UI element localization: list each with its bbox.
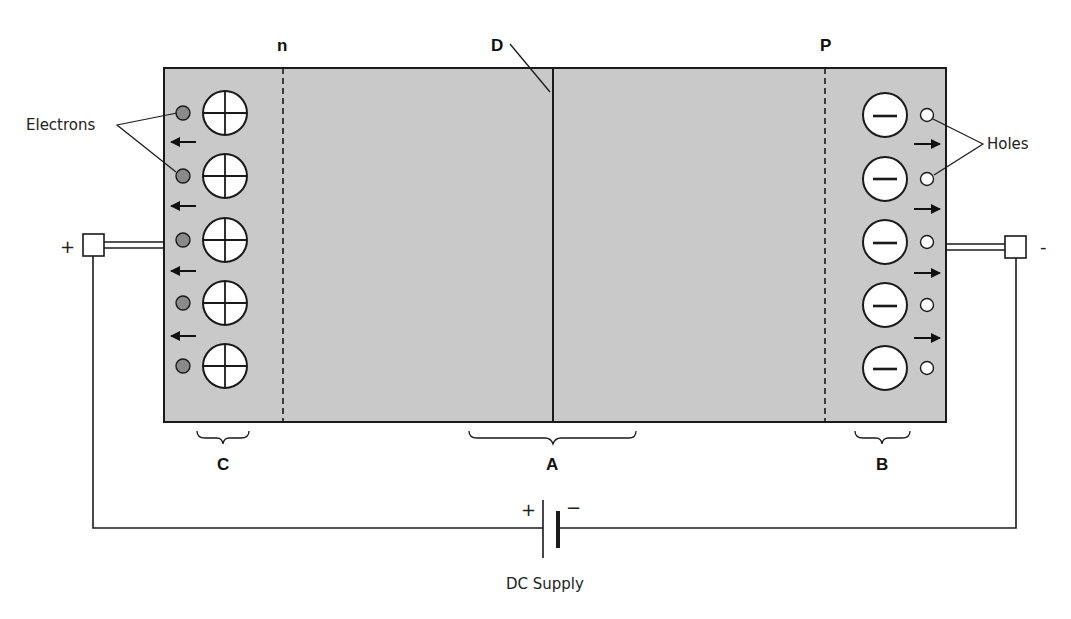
negative-ion-icon — [863, 220, 907, 264]
brace-c — [197, 431, 249, 444]
negative-terminal-sign: - — [1040, 236, 1047, 257]
n-region-label: n — [277, 36, 287, 55]
electron-icon — [176, 359, 190, 373]
battery-icon — [543, 500, 558, 558]
dc-supply-label: DC Supply — [506, 575, 584, 593]
positive-ion-icon — [203, 281, 247, 325]
brace-a — [469, 431, 636, 444]
p-region-label: P — [820, 36, 831, 55]
brace-b — [855, 431, 910, 444]
positive-ion-icon — [203, 154, 247, 198]
positive-terminal — [83, 234, 164, 256]
brace-b-label: B — [876, 455, 888, 474]
negative-ion-icon — [863, 346, 907, 390]
electron-icon — [176, 106, 190, 120]
junction-label: D — [491, 36, 503, 55]
hole-icon — [921, 299, 934, 312]
positive-ion-icon — [203, 218, 247, 262]
supply-plus-sign: + — [521, 499, 536, 520]
terminal-box — [83, 234, 104, 256]
brace-a-label: A — [546, 455, 558, 474]
positive-ion-icon — [203, 91, 247, 135]
holes-label: Holes — [987, 135, 1029, 153]
positive-ion-icon — [203, 344, 247, 388]
hole-icon — [921, 173, 934, 186]
hole-icon — [921, 109, 934, 122]
electron-icon — [176, 296, 190, 310]
terminal-box — [1005, 236, 1026, 258]
negative-ion-icon — [863, 157, 907, 201]
pn-junction-diagram: n D P — [0, 0, 1071, 619]
brace-c-label: C — [217, 455, 229, 474]
hole-icon — [921, 362, 934, 375]
hole-icon — [921, 236, 934, 249]
electrons-label: Electrons — [26, 116, 96, 134]
semiconductor-block — [164, 68, 946, 422]
positive-terminal-sign: + — [60, 236, 75, 257]
electron-icon — [176, 233, 190, 247]
negative-terminal — [946, 236, 1026, 258]
supply-minus-sign: − — [566, 497, 581, 518]
negative-ion-icon — [863, 283, 907, 327]
negative-ion-icon — [863, 93, 907, 137]
electron-icon — [176, 169, 190, 183]
